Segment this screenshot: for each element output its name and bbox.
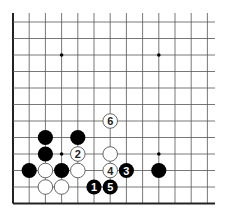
white-stone-move-4: 4: [103, 163, 118, 178]
star-point: [60, 152, 64, 156]
move-number-label: 6: [107, 115, 113, 127]
black-stone: [38, 146, 53, 161]
black-stone: [38, 130, 53, 145]
move-number-label: 1: [91, 181, 97, 193]
move-number-label: 5: [107, 181, 113, 193]
black-stone-move-5: 5: [103, 179, 118, 194]
white-stone: [71, 163, 86, 178]
white-stone: [38, 180, 53, 195]
white-stone: [103, 147, 118, 162]
black-stone: [54, 163, 69, 178]
move-number-label: 4: [107, 165, 114, 177]
black-stone-move-1: 1: [86, 179, 101, 194]
white-stone: [54, 180, 69, 195]
black-stone: [22, 163, 37, 178]
black-stone: [70, 130, 85, 145]
star-point: [157, 152, 161, 156]
black-stone-move-3: 3: [119, 163, 134, 178]
white-stone-move-2: 2: [71, 147, 86, 162]
go-board: 243156: [0, 0, 228, 214]
white-stone: [38, 163, 53, 178]
star-point: [60, 53, 64, 57]
move-number-label: 2: [75, 148, 81, 160]
move-number-label: 3: [123, 165, 129, 177]
star-point: [157, 53, 161, 57]
black-stone: [151, 163, 166, 178]
white-stone-move-6: 6: [103, 114, 118, 129]
